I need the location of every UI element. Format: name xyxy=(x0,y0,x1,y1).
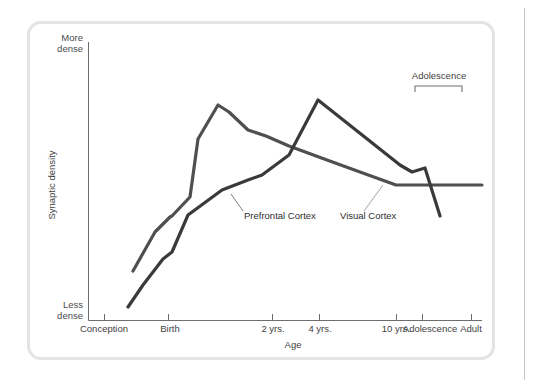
adolescence-annotation: Adolescence xyxy=(412,70,466,92)
y-axis-title: Synaptic density xyxy=(46,150,57,219)
y-axis-end-labels: More dense Less dense xyxy=(57,32,83,321)
series-label-visual-cortex: Visual Cortex xyxy=(340,210,397,221)
x-tick-label-conception: Conception xyxy=(80,323,128,334)
y-axis-bottom-label-line2: dense xyxy=(57,310,83,321)
x-tick-label-adult: Adult xyxy=(460,323,482,334)
series-label-visual-cortex-group: Visual Cortex xyxy=(340,185,397,221)
leader-line-visual-cortex xyxy=(364,185,383,211)
x-axis-title: Age xyxy=(285,339,302,350)
x-tick-label-2yrs: 2 yrs. xyxy=(261,323,284,334)
adolescence-bracket-label: Adolescence xyxy=(412,70,466,81)
x-axis-ticks xyxy=(105,314,472,321)
series-line-prefrontal-cortex xyxy=(128,100,440,307)
y-axis-top-label-line1: More xyxy=(61,32,83,43)
x-axis-tick-labels: Conception Birth 2 yrs. 4 yrs. 10 yrs. A… xyxy=(80,323,482,334)
series-label-prefrontal-cortex-group: Prefrontal Cortex xyxy=(231,194,316,221)
leader-line-prefrontal-cortex xyxy=(231,194,243,211)
x-tick-label-birth: Birth xyxy=(160,323,180,334)
synaptic-density-chart: More dense Less dense Synaptic density C… xyxy=(0,0,536,388)
y-axis-bottom-label-line1: Less xyxy=(63,299,83,310)
adolescence-bracket-shape xyxy=(415,86,462,92)
x-tick-label-adolescence: Adolescence xyxy=(403,323,457,334)
y-axis-top-label-line2: dense xyxy=(57,43,83,54)
x-tick-label-4yrs: 4 yrs. xyxy=(308,323,331,334)
series-label-prefrontal-cortex: Prefrontal Cortex xyxy=(244,210,316,221)
figure-root: More dense Less dense Synaptic density C… xyxy=(0,0,536,388)
